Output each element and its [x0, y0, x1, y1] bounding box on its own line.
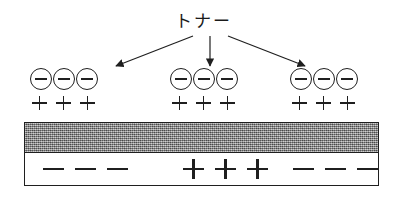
- toner-group-left: [28, 68, 99, 114]
- positive-sign-icon: [183, 158, 204, 180]
- positive-charge-icon: [192, 92, 215, 114]
- negative-particle-row: [290, 68, 358, 90]
- positive-sign-icon: [247, 158, 268, 180]
- positive-charge-icon: [168, 92, 191, 114]
- positive-charge-icon: [312, 92, 335, 114]
- white-base-layer: [25, 153, 378, 185]
- positive-charge-icon: [336, 92, 359, 114]
- surface-charge-row: [168, 92, 239, 114]
- negative-sign-icon: [107, 168, 128, 170]
- negative-charge-icon: [53, 68, 75, 90]
- toner-label: トナー: [0, 11, 407, 31]
- toner-group-right: [288, 68, 359, 114]
- arrow-to-right-group: [228, 36, 305, 66]
- positive-charge-icon: [52, 92, 75, 114]
- negative-charge-icon: [336, 68, 358, 90]
- arrow-group: [116, 36, 305, 66]
- negative-charge-icon: [216, 68, 238, 90]
- positive-charge-icon: [76, 92, 99, 114]
- substrate-bar: [24, 122, 379, 186]
- positive-sign-icon: [215, 158, 236, 180]
- base-sign-group-left: [43, 153, 128, 185]
- negative-charge-icon: [170, 68, 192, 90]
- toner-group-middle: [168, 68, 239, 114]
- toner-charge-diagram: トナー: [0, 0, 407, 210]
- positive-charge-icon: [288, 92, 311, 114]
- negative-sign-icon: [293, 168, 314, 170]
- arrow-to-left-group: [116, 36, 193, 66]
- negative-charge-icon: [290, 68, 312, 90]
- negative-charge-icon: [313, 68, 335, 90]
- negative-charge-icon: [76, 68, 98, 90]
- negative-charge-icon: [30, 68, 52, 90]
- negative-charge-icon: [193, 68, 215, 90]
- surface-charge-row: [288, 92, 359, 114]
- base-sign-group-middle: [183, 153, 268, 185]
- negative-particle-row: [170, 68, 238, 90]
- base-sign-group-right: [293, 153, 378, 185]
- negative-sign-icon: [43, 168, 64, 170]
- negative-particle-row: [30, 68, 98, 90]
- surface-charge-row: [28, 92, 99, 114]
- gray-charged-layer: [25, 123, 378, 153]
- positive-charge-icon: [216, 92, 239, 114]
- negative-sign-icon: [325, 168, 346, 170]
- negative-sign-icon: [75, 168, 96, 170]
- negative-sign-icon: [357, 168, 378, 170]
- positive-charge-icon: [28, 92, 51, 114]
